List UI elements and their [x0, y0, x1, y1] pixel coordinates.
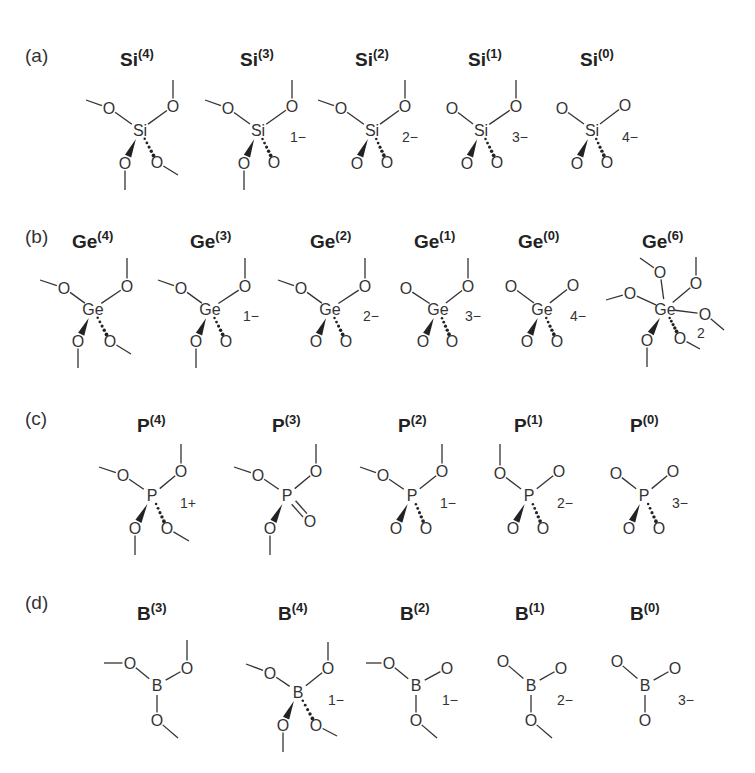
charge-label: 1− — [290, 129, 306, 145]
central-atom: Si — [133, 122, 147, 139]
qn-superscript: (0) — [643, 412, 659, 427]
molecule-b-1: OOOB2− — [497, 653, 573, 739]
dash-bond-dot — [304, 704, 307, 707]
element-symbol: Ge — [72, 231, 97, 252]
bridging-bond — [360, 467, 376, 473]
oxygen-atom: O — [436, 463, 448, 480]
bridging-bond — [205, 100, 221, 106]
element-symbol: B — [278, 603, 292, 624]
oxygen-atom: O — [551, 333, 563, 350]
qn-superscript: (6) — [667, 228, 683, 243]
qn-superscript: (2) — [414, 600, 430, 615]
dash-bond-dot — [380, 149, 383, 152]
oxygen-atom: O — [264, 520, 276, 537]
dash-bond-dot — [306, 708, 309, 711]
oxygen-atom: O — [310, 463, 322, 480]
charge-label: 2 — [697, 325, 705, 341]
dash-bond-dot — [267, 150, 270, 153]
panel-label-a: (a) — [25, 45, 48, 67]
qn-superscript: (2) — [411, 412, 427, 427]
oxygen-atom: O — [322, 660, 334, 677]
oxygen-atom: O — [190, 333, 202, 350]
molecule-si-4: OOOOSi — [86, 80, 179, 190]
charge-label: 3− — [672, 495, 688, 511]
dash-bond-dot — [444, 325, 447, 328]
oxygen-atom: O — [239, 278, 251, 295]
central-atom: Si — [474, 122, 488, 139]
molecule-p-3: OOOOP — [234, 444, 322, 555]
unit-label-b-0: B(0) — [630, 600, 660, 625]
oxygen-atom: O — [390, 520, 402, 537]
charge-label: 1− — [328, 692, 344, 708]
oxygen-atom: O — [167, 98, 179, 115]
central-atom: P — [407, 487, 418, 504]
central-atom: B — [526, 677, 537, 694]
qn-superscript: (1) — [439, 228, 455, 243]
unit-label-b-4: B(4) — [278, 600, 308, 625]
central-atom: Ge — [427, 301, 448, 318]
dash-bond-dot — [148, 146, 151, 149]
oxygen-atom: O — [441, 660, 453, 677]
oxygen-atom: O — [505, 278, 517, 295]
oxygen-atom: O — [497, 653, 509, 670]
element-symbol: Si — [240, 49, 258, 70]
central-atom: P — [639, 487, 650, 504]
oxygen-atom: O — [161, 520, 173, 537]
oxygen-atom: O — [667, 463, 679, 480]
molecule-si-3: OOOOSi1− — [205, 80, 306, 190]
oxygen-atom: O — [104, 333, 116, 350]
oxygen-atom: O — [462, 278, 474, 295]
unit-label-b-3: B(3) — [137, 600, 167, 625]
unit-label-p-2: P(2) — [398, 412, 427, 437]
dash-bond-dot — [160, 515, 163, 518]
central-atom: Ge — [531, 301, 552, 318]
single-bond — [425, 672, 441, 681]
element-symbol: B — [400, 603, 414, 624]
charge-label: 2− — [557, 495, 573, 511]
dash-bond-dot — [547, 321, 550, 324]
bridging-bond — [606, 295, 623, 300]
dash-bond-dot — [649, 507, 652, 510]
molecule-ge-6: OOOOOOGe2 — [606, 257, 724, 367]
oxygen-atom: O — [619, 97, 631, 114]
qn-superscript: (3) — [285, 412, 301, 427]
dash-bond-dot — [339, 329, 342, 332]
molecule-b-2: OOOB1− — [366, 655, 458, 739]
single-bond — [395, 668, 408, 679]
element-symbol: P — [272, 415, 285, 436]
oxygen-atom: O — [381, 154, 393, 171]
single-bond — [380, 110, 399, 124]
oxygen-atom: O — [639, 712, 651, 729]
bridging-bond — [422, 725, 437, 738]
qn-superscript: (2) — [335, 228, 351, 243]
single-bond — [160, 476, 176, 489]
single-bond — [264, 479, 279, 489]
qn-superscript: (0) — [598, 46, 614, 61]
unit-label-si-0: Si(0) — [580, 46, 614, 71]
dash-bond-dot — [263, 142, 266, 145]
molecule-ge-0: OOOOGe4− — [505, 277, 586, 350]
single-bond — [622, 478, 636, 489]
single-bond — [506, 478, 521, 489]
bridging-bond — [40, 280, 57, 286]
oxygen-atom: O — [690, 275, 702, 292]
oxygen-atom: O — [610, 465, 622, 482]
oxygen-atom: O — [400, 280, 412, 297]
unit-label-b-2: B(2) — [400, 600, 430, 625]
oxygen-atom: O — [674, 330, 686, 347]
oxygen-atom: O — [601, 154, 613, 171]
single-bond — [489, 110, 510, 124]
central-atom: Ge — [82, 301, 103, 318]
molecule-p-1: OOOOP2− — [494, 444, 573, 537]
qn-superscript: (4) — [97, 228, 113, 243]
double-bond — [292, 504, 303, 517]
oxygen-atom: O — [611, 653, 623, 670]
qn-superscript: (2) — [373, 46, 389, 61]
oxygen-atom: O — [420, 520, 432, 537]
dash-bond-dot — [598, 146, 601, 149]
single-bond — [166, 672, 181, 680]
dash-bond-dot — [652, 515, 655, 518]
single-bond — [509, 666, 524, 679]
molecule-si-2: OOOOSi2− — [318, 80, 418, 172]
bridging-bond — [318, 100, 334, 106]
